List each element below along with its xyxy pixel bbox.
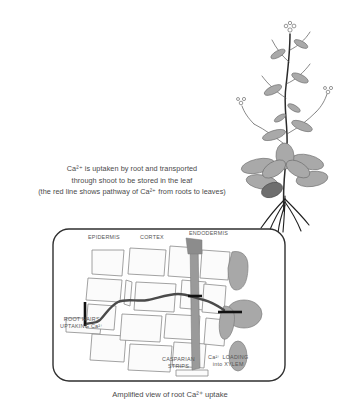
arabidopsis-plant-illustration bbox=[228, 6, 340, 234]
bottom-caption: Amplified view of root Ca²⁺ uptake bbox=[0, 390, 340, 399]
label-endodermis: ENDODERMIS bbox=[189, 230, 228, 237]
label-casparian-strips: CASPARIAN STRIPS bbox=[162, 356, 195, 369]
caption-line-2: through shoot to be stored in the leaf bbox=[0, 175, 264, 187]
label-cortex: CORTEX bbox=[140, 234, 164, 241]
caption-line-1: Ca²⁺ is uptaken by root and transported bbox=[0, 163, 264, 175]
root-uptake-diagram: EPIDERMIS CORTEX ENDODERMIS ROOT HAIRS U… bbox=[52, 228, 286, 382]
label-root-hairs: ROOT HAIRS UPTAKING Ca²⁺ bbox=[60, 316, 104, 329]
label-epidermis: EPIDERMIS bbox=[88, 234, 120, 241]
caption-line-3: (the red line shows pathway of Ca²⁺ from… bbox=[0, 186, 264, 198]
label-calcium-loading: Ca²⁺ LOADING into XYLEM bbox=[208, 354, 248, 367]
figure-root: Ca²⁺ is uptaken by root and transported … bbox=[0, 0, 340, 408]
figure-caption: Ca²⁺ is uptaken by root and transported … bbox=[0, 163, 264, 198]
